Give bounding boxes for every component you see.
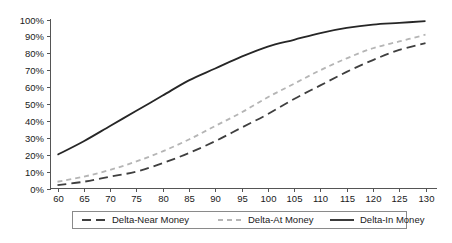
- y-tick-label: 50%: [25, 99, 45, 110]
- x-axis-ticks: [59, 189, 427, 193]
- legend-items: Delta-Near MoneyDelta-At MoneyDelta-In M…: [82, 214, 425, 225]
- y-tick-label: 90%: [25, 31, 45, 42]
- x-tick-label: 80: [158, 193, 169, 204]
- x-tick-label: 70: [105, 193, 116, 204]
- x-tick-label: 90: [210, 193, 221, 204]
- series-line: [58, 21, 426, 155]
- x-tick-label: 100: [261, 193, 277, 204]
- series-line: [58, 43, 426, 185]
- x-tick-label: 85: [184, 193, 195, 204]
- chart-container: 0%10%20%30%40%50%60%70%80%90%100% 606570…: [0, 0, 452, 243]
- y-axis: 0%10%20%30%40%50%60%70%80%90%100%: [20, 15, 51, 195]
- line-chart: 0%10%20%30%40%50%60%70%80%90%100% 606570…: [0, 0, 452, 243]
- y-tick-label: 10%: [25, 167, 45, 178]
- x-tick-label: 95: [237, 193, 248, 204]
- legend-label: Delta-Near Money: [112, 214, 189, 225]
- legend: Delta-Near MoneyDelta-At MoneyDelta-In M…: [73, 212, 425, 229]
- x-tick-label: 105: [287, 193, 303, 204]
- data-series-group: [58, 21, 426, 185]
- x-tick-label: 125: [392, 193, 408, 204]
- legend-label: Delta-At Money: [248, 214, 314, 225]
- y-axis-ticks: [47, 21, 51, 190]
- y-tick-label: 40%: [25, 116, 45, 127]
- x-tick-label: 130: [419, 193, 435, 204]
- x-axis-tick-labels: 6065707580859095100105110115120125130: [53, 193, 434, 204]
- x-tick-label: 60: [53, 193, 64, 204]
- y-tick-label: 60%: [25, 82, 45, 93]
- x-axis: 6065707580859095100105110115120125130: [51, 189, 438, 205]
- y-tick-label: 80%: [25, 48, 45, 59]
- x-tick-label: 110: [313, 193, 328, 204]
- y-tick-label: 0%: [30, 184, 44, 195]
- y-tick-label: 100%: [20, 15, 45, 26]
- y-axis-tick-labels: 0%10%20%30%40%50%60%70%80%90%100%: [20, 15, 45, 195]
- x-tick-label: 75: [131, 193, 142, 204]
- x-tick-label: 65: [79, 193, 90, 204]
- x-tick-label: 120: [366, 193, 382, 204]
- legend-label: Delta-In Money: [360, 214, 425, 225]
- y-tick-label: 30%: [25, 133, 45, 144]
- y-tick-label: 70%: [25, 65, 45, 76]
- x-tick-label: 115: [340, 193, 355, 204]
- y-tick-label: 20%: [25, 150, 45, 161]
